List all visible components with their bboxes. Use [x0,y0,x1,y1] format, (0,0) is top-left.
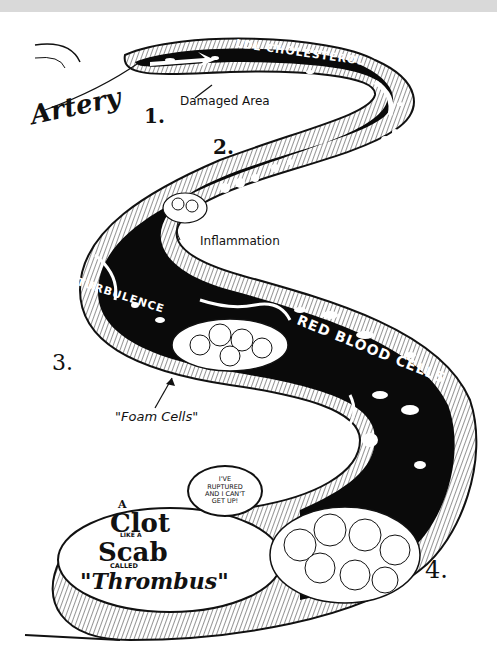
inflammation-cluster [163,193,207,223]
foam-cells-step4 [270,507,420,603]
label-foam-cells: "Foam Cells" [115,410,198,423]
bubble-line-4: GET UP! [212,498,238,505]
step-4: 4. [425,556,448,584]
clot-caption-thrombus: "Thrombus" [80,568,229,594]
step-2: 2. [213,135,234,159]
foam-cells-cluster [172,319,288,371]
label-inflammation: Inflammation [200,235,280,247]
step-3: 3. [52,350,73,375]
step-1: 1. [144,104,165,128]
speech-bubble: I'VE RUPTURED AND I CAN'T GET UP! [187,465,263,517]
label-damaged-area: Damaged Area [180,95,270,107]
thrombus-region [58,508,282,612]
